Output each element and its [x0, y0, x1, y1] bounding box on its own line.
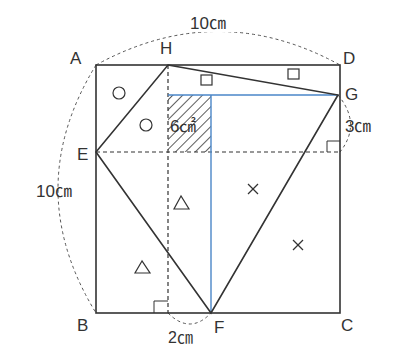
- square-marker: [201, 75, 212, 85]
- right-length-label: 3㎝: [345, 117, 371, 136]
- geometry-diagram: A H D G E B F C 10㎝ 10㎝ 3㎝ 2㎝ 6㎠: [0, 0, 409, 361]
- label-e: E: [77, 145, 88, 164]
- label-b: B: [77, 316, 88, 335]
- label-c: C: [341, 316, 353, 335]
- right-angle-mark-e: [327, 141, 340, 152]
- quadrilateral-egfh: [96, 65, 338, 313]
- top-arc: [96, 32, 340, 66]
- triangle-marker: [174, 196, 189, 209]
- label-a: A: [70, 49, 82, 68]
- left-length-label: 10㎝: [36, 182, 72, 201]
- square-marker: [288, 69, 299, 79]
- circle-marker: [113, 87, 125, 99]
- square-abcd: [96, 65, 340, 313]
- triangle-marker: [135, 261, 150, 273]
- label-d: D: [343, 49, 355, 68]
- top-length-label: 10㎝: [190, 14, 226, 33]
- bottom-arc: [168, 313, 211, 324]
- label-g: G: [345, 85, 358, 104]
- circle-marker: [140, 119, 152, 131]
- label-h: H: [160, 39, 172, 58]
- bottom-length-label: 2㎝: [168, 329, 193, 346]
- label-f: F: [214, 318, 224, 337]
- cross-marker: [293, 240, 303, 250]
- right-angle-mark-b: [154, 301, 168, 313]
- cross-marker: [248, 184, 258, 194]
- shaded-area-label: 6㎠: [170, 117, 196, 136]
